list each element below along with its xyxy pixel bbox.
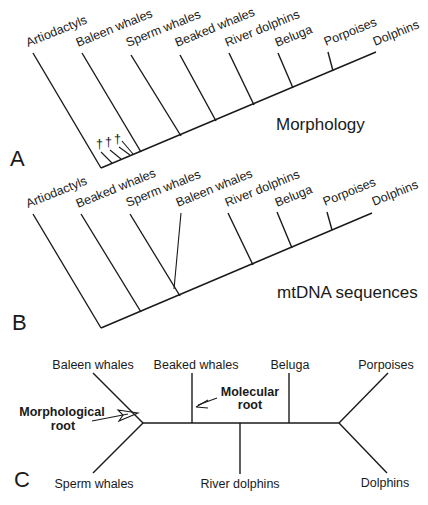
panel-b-branch-river <box>228 213 253 265</box>
molecular-root-label-line1: Molecular <box>221 385 279 399</box>
panel-a-branch-beaked <box>180 55 216 121</box>
fossil-dagger-icon: † <box>96 137 103 151</box>
panel-a-taxon-dolphins: Dolphins <box>371 18 421 49</box>
molecular-root-label-line2: root <box>238 398 263 412</box>
panel-b-branch-beluga <box>277 212 292 248</box>
panel-c-labels: Baleen whales Sperm whales Beaked whales… <box>19 358 414 491</box>
panel-c-label: C <box>14 467 30 492</box>
whale-phylogeny-figure: † † † Artiodactyls Baleen whales Sperm w… <box>0 0 428 505</box>
panel-a-branch-beluga <box>278 53 293 88</box>
panel-b-branch-baleen <box>174 213 181 289</box>
panel-c-taxon-river-dolphins: River dolphins <box>200 477 279 491</box>
panel-b-label: B <box>12 310 27 335</box>
panel-a-backbone <box>101 52 376 168</box>
panel-a-fossil-branch-4 <box>122 141 133 154</box>
panel-b-branch-beaked <box>81 214 141 312</box>
panel-b-branch-sperm <box>130 214 180 296</box>
panel-c-taxon-porpoises: Porpoises <box>358 358 414 372</box>
panel-b-labels: Artiodactyls Beaked whales Sperm whales … <box>24 166 420 211</box>
panel-a-label: A <box>10 146 25 171</box>
morphological-root-label-line2: root <box>51 419 76 433</box>
panel-b-branch-porpoises <box>327 212 332 230</box>
panel-b-tree <box>33 212 372 328</box>
panel-c-branch-sperm <box>93 423 143 473</box>
panel-a-branch-river <box>229 53 254 105</box>
panel-c-taxon-sperm-whales: Sperm whales <box>54 477 133 491</box>
panel-a-fossil-branch-1 <box>101 152 112 163</box>
panel-c-taxon-dolphins: Dolphins <box>361 476 410 490</box>
fossil-dagger-icon: † <box>105 135 112 149</box>
panel-a-fossil-branch-2 <box>110 150 121 159</box>
panel-c-taxon-beaked-whales: Beaked whales <box>154 358 239 372</box>
morphological-root-label-line1: Morphological <box>19 405 104 419</box>
panel-a-caption: Morphology <box>276 115 365 134</box>
panel-c-branch-porpoises <box>339 373 388 423</box>
fossil-dagger-icon: † <box>114 132 121 146</box>
panel-b-caption: mtDNA sequences <box>277 283 418 302</box>
molecular-root-arrow-icon <box>196 400 208 408</box>
panel-a-branch-artiodactyls <box>33 53 101 168</box>
panel-b-taxon-porpoises: Porpoises <box>321 175 378 209</box>
panel-c-taxon-baleen-whales: Baleen whales <box>52 358 133 372</box>
panel-c-taxon-beluga: Beluga <box>271 358 310 372</box>
panel-a-branch-sperm <box>131 55 181 136</box>
panel-a-labels: Artiodactyls Baleen whales Sperm whales … <box>24 5 421 50</box>
panel-b-taxon-dolphins: Dolphins <box>370 178 420 209</box>
panel-a-branch-porpoises <box>328 52 333 71</box>
panel-c-branch-dolphins <box>339 423 387 473</box>
panel-a-tree: † † † <box>33 52 376 168</box>
panel-a-taxon-porpoises: Porpoises <box>322 15 379 49</box>
